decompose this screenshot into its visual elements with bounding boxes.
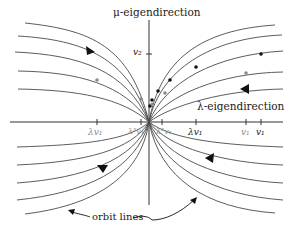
orbit-point: [139, 97, 143, 101]
annotation-arrowhead-left-icon: [68, 209, 75, 215]
orbit-point: [244, 71, 248, 75]
orbit-point: [168, 78, 172, 82]
tick-label-v1-gray: v₁: [241, 127, 250, 137]
orbit-point: [156, 89, 160, 93]
orbit-point: [150, 102, 153, 105]
orbit-point: [194, 65, 198, 69]
diagram-canvas: [0, 0, 299, 234]
tick-label-lambda-v1-dark: λv₁: [188, 127, 202, 137]
orbit-point: [163, 91, 167, 95]
orbit-point: [150, 98, 154, 102]
lambda-eigendirection-label: λ-eigendirection: [197, 100, 284, 112]
phase-portrait-diagram: μ-eigendirection λ-eigendirection v₂ λv₁…: [0, 0, 299, 234]
tick-label-lambda2-v1: λ²v₁: [156, 127, 172, 136]
arrow-lower-left-icon: [97, 165, 108, 173]
mu-eigendirection-label: μ-eigendirection: [113, 6, 201, 18]
orbit-point: [259, 52, 263, 56]
annotation-arrow-left: [72, 212, 90, 217]
orbit-lines-annotation: orbit lines: [92, 211, 143, 222]
tick-label-lambda3-v1: λ³v₁: [128, 127, 144, 136]
orbit-point: [95, 78, 99, 82]
v2-tick-label: v₂: [133, 47, 142, 57]
orbits-upper-left: [15, 23, 149, 122]
tick-label-lambda-v1-gray: λv₁: [88, 127, 102, 137]
arrow-upper-left-icon: [86, 46, 95, 55]
tick-label-v1-dark: v₁: [256, 127, 265, 137]
